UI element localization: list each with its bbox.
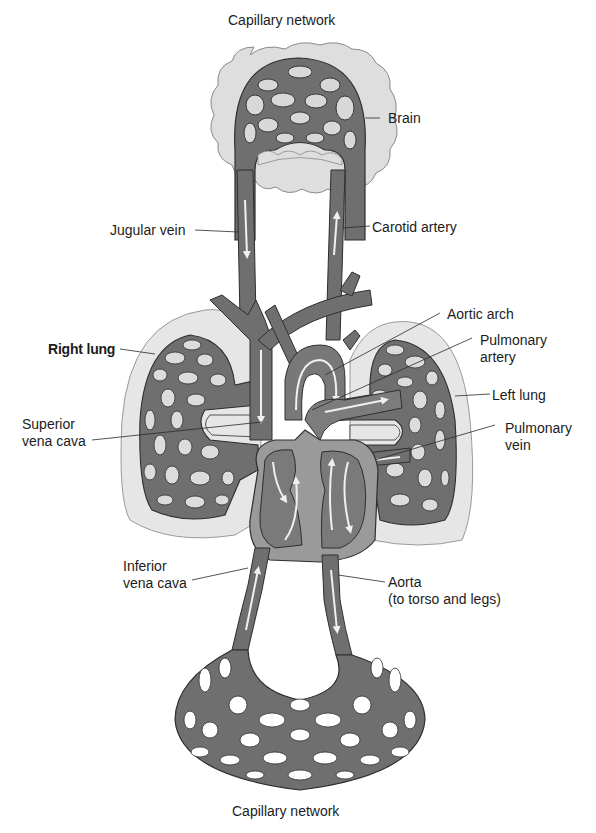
heart (250, 430, 378, 562)
label-pulmonary-vein-line1: Pulmonary (505, 420, 572, 437)
label-aorta-line2: (to torso and legs) (388, 591, 501, 608)
label-pulmonary-artery-line2: artery (480, 349, 547, 366)
label-superior-vena-cava-line1: Superior (22, 416, 86, 433)
label-pulmonary-artery-line1: Pulmonary (480, 332, 547, 349)
label-pulmonary-vein: Pulmonary vein (505, 420, 572, 454)
label-aorta-line1: Aorta (388, 574, 501, 591)
label-capillary-network-top: Capillary network (228, 12, 335, 29)
label-superior-vena-cava-line2: vena cava (22, 433, 86, 450)
label-right-lung: Right lung (48, 341, 115, 358)
lower-capillary-network (175, 650, 425, 790)
label-aorta: Aorta (to torso and legs) (388, 574, 501, 608)
diagram-artwork (0, 0, 596, 833)
label-inferior-vena-cava: Inferior vena cava (123, 558, 187, 592)
label-aortic-arch: Aortic arch (447, 306, 514, 323)
label-pulmonary-vein-line2: vein (505, 437, 572, 454)
label-superior-vena-cava: Superior vena cava (22, 416, 86, 450)
jugular-vein (237, 170, 256, 320)
label-brain: Brain (388, 110, 421, 127)
aorta-descending (322, 555, 352, 655)
label-pulmonary-artery: Pulmonary artery (480, 332, 547, 366)
label-left-lung: Left lung (492, 387, 546, 404)
inferior-vena-cava (232, 548, 270, 650)
label-inferior-vena-cava-line1: Inferior (123, 558, 187, 575)
label-inferior-vena-cava-line2: vena cava (123, 575, 187, 592)
label-capillary-network-bottom: Capillary network (232, 803, 339, 820)
label-carotid-artery: Carotid artery (372, 219, 457, 236)
label-jugular-vein: Jugular vein (110, 222, 186, 239)
circulatory-diagram: Capillary network Brain Jugular vein Car… (0, 0, 596, 833)
